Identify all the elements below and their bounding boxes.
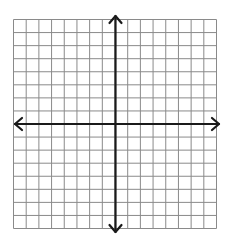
coordinate-plane bbox=[0, 0, 228, 242]
x-axis bbox=[15, 118, 219, 130]
